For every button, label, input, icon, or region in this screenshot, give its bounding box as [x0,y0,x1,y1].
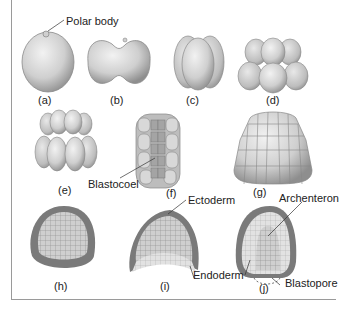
panel-c-four-cell [174,36,224,90]
caption-j: (j) [259,282,269,294]
panel-i-early-gastrula [129,200,198,278]
caption-b: (b) [110,94,123,106]
label-blastopore: Blastopore [285,277,338,289]
panel-g-blastula [234,112,312,184]
caption-g: (g) [253,186,266,198]
panel-a-zygote [22,20,74,92]
label-archenteron: Archenteron [279,192,339,204]
panel-b-two-cell [88,38,150,83]
panel-h-blastula-section [30,206,95,268]
panel-d-eight-cell [238,38,308,93]
label-endoderm: Endoderm [193,269,244,281]
caption-f: (f) [166,187,176,199]
label-ectoderm: Ectoderm [188,194,235,206]
caption-c: (c) [186,94,199,106]
panel-j-gastrula [236,202,302,285]
caption-i: (i) [160,280,170,292]
panel-e-sixteen-cell [35,110,97,171]
caption-h: (h) [54,280,67,292]
label-polar-body: Polar body [66,15,119,27]
polar-body-icon [43,31,49,37]
caption-e: (e) [58,184,71,196]
label-blastocoel: Blastocoel [88,178,139,190]
caption-d: (d) [266,94,279,106]
caption-a: (a) [38,94,51,106]
panel-f-cutaway-blastula [120,114,180,188]
embryo-development-diagram [0,0,352,318]
